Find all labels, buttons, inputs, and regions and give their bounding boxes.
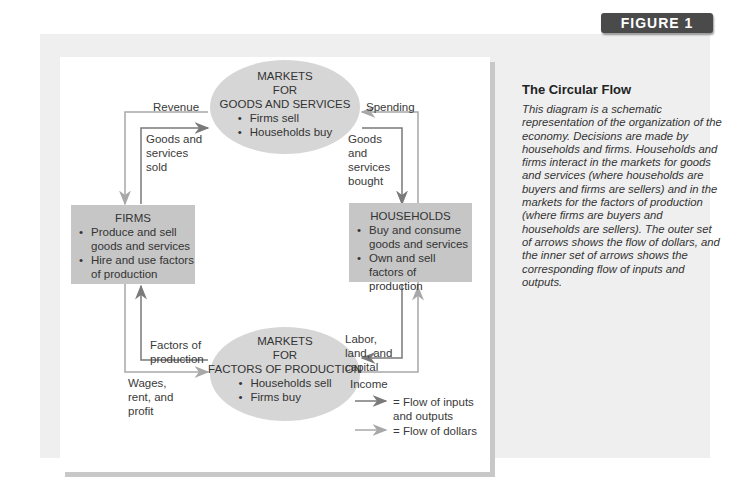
- firms-bullet: Hire and use factors of production: [91, 253, 195, 281]
- factor-market-bullet: Firms buy: [238, 390, 331, 404]
- firms-bullet: Produce and sell goods and services: [91, 225, 195, 253]
- income-label: Income: [350, 377, 388, 391]
- factor-market-bullet: Households sell: [238, 376, 331, 390]
- goods-sold-label: Goods and services sold: [146, 132, 210, 174]
- households-bullet: Buy and consume goods and services: [369, 223, 472, 251]
- factors-label: Factors of production: [150, 338, 208, 366]
- spending-label: Spending: [366, 100, 415, 114]
- goods-market-bullet: Firms sell: [238, 111, 332, 125]
- goods-market-bullet: Households buy: [238, 125, 332, 139]
- goods-bought-label: Goods and services bought: [348, 132, 400, 188]
- caption-title: The Circular Flow: [522, 82, 631, 97]
- legend-inputs-outputs: = Flow of inputs and outputs: [393, 395, 488, 423]
- firms-title: FIRMS: [71, 211, 195, 225]
- goods-market-text: MARKETS FOR GOODS AND SERVICES Firms sel…: [210, 69, 360, 139]
- legend-dollars: = Flow of dollars: [393, 424, 477, 438]
- wages-label: Wages, rent, and profit: [128, 376, 192, 418]
- caption-body: This diagram is a schematic representati…: [522, 103, 722, 289]
- households-title: HOUSEHOLDS: [349, 209, 472, 223]
- factor-market-text: MARKETS FOR FACTORS OF PRODUCTION Househ…: [205, 334, 365, 404]
- labor-label: Labor, land, and capital: [345, 332, 401, 374]
- revenue-label: Revenue: [153, 100, 199, 114]
- firms-box: FIRMS Produce and sell goods and service…: [71, 205, 195, 284]
- households-bullet: Own and sell factors of production: [369, 251, 472, 293]
- households-box: HOUSEHOLDS Buy and consume goods and ser…: [349, 203, 472, 282]
